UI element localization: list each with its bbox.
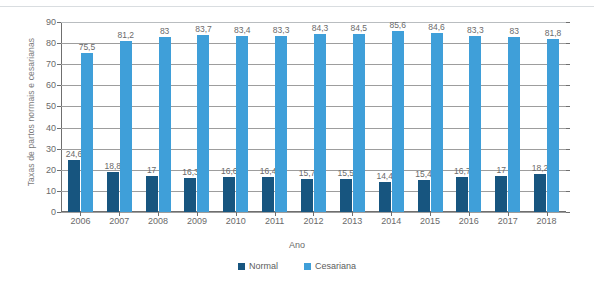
bar-value-label: 14,4 [376, 171, 393, 181]
bar-value-label: 81,2 [117, 30, 134, 40]
bar-groups: 24,675,518,881,2178316,383,716,683,416,4… [61, 22, 566, 212]
bar-value-label: 16,7 [454, 166, 471, 176]
bar-cesariana[interactable]: 83,3 [275, 36, 287, 212]
y-axis-tick-label: 50 [46, 101, 56, 111]
x-axis-tick-label: 2007 [100, 216, 139, 226]
bar-group: 24,675,5 [61, 22, 100, 212]
bar-value-label: 85,6 [389, 20, 406, 30]
bar-normal[interactable]: 15,4 [418, 180, 430, 213]
bar-normal[interactable]: 14,4 [379, 182, 391, 212]
x-axis-tick-label: 2011 [255, 216, 294, 226]
x-axis-tick-label: 2013 [333, 216, 372, 226]
bar-normal[interactable]: 24,6 [68, 160, 80, 212]
bar-value-label: 16,6 [221, 166, 238, 176]
x-axis-title: Ano [0, 240, 594, 250]
bar-value-label: 84,6 [428, 22, 445, 32]
y-axis-tick-label: 20 [46, 165, 56, 175]
bar-pair: 15,484,6 [411, 22, 450, 212]
bar-group: 15,784,3 [294, 22, 333, 212]
bar-group: 18,281,8 [527, 22, 566, 212]
y-axis-tick-mark-right [566, 212, 570, 213]
bar-normal[interactable]: 16,4 [262, 177, 274, 212]
bar-normal[interactable]: 16,3 [184, 178, 196, 212]
bar-normal[interactable]: 17 [495, 176, 507, 212]
bar-cesariana[interactable]: 75,5 [81, 53, 93, 212]
bar-pair: 15,784,3 [294, 22, 333, 212]
x-axis-tick-label: 2008 [139, 216, 178, 226]
bar-normal[interactable]: 15,7 [301, 179, 313, 212]
y-axis-tick-label: 80 [46, 38, 56, 48]
x-axis-tick-label: 2009 [178, 216, 217, 226]
chart-container: Taxas de partos normais e cesarianas 908… [0, 0, 594, 293]
y-axis-tick-label: 40 [46, 123, 56, 133]
bar-normal[interactable]: 18,8 [107, 172, 119, 212]
bar-cesariana[interactable]: 81,8 [547, 39, 559, 212]
bar-pair: 1783 [488, 22, 527, 212]
legend-label: Cesariana [315, 261, 356, 271]
bar-value-label: 83,7 [195, 24, 212, 34]
bar-cesariana[interactable]: 83 [159, 37, 171, 212]
bar-value-label: 84,3 [312, 23, 329, 33]
y-axis-title: Taxas de partos normais e cesarianas [26, 12, 36, 212]
y-axis-tick-mark-right [566, 22, 570, 23]
bar-normal[interactable]: 15,5 [340, 179, 352, 212]
bar-value-label: 16,4 [260, 166, 277, 176]
plot-area: 9080706050403020100 24,675,518,881,21783… [61, 22, 566, 212]
bar-cesariana[interactable]: 84,6 [431, 33, 443, 212]
bar-value-label: 15,5 [338, 168, 355, 178]
bar-cesariana[interactable]: 83,7 [197, 35, 209, 212]
bar-pair: 16,683,4 [216, 22, 255, 212]
bar-value-label: 18,2 [532, 163, 549, 173]
bar-value-label: 15,4 [415, 169, 432, 179]
bar-pair: 18,281,8 [527, 22, 566, 212]
bar-normal[interactable]: 17 [146, 176, 158, 212]
bar-value-label: 24,6 [66, 149, 83, 159]
x-axis-tick-label: 2018 [527, 216, 566, 226]
bar-value-label: 83,3 [467, 25, 484, 35]
bar-value-label: 75,5 [79, 42, 96, 52]
y-axis-tick-mark-right [566, 170, 570, 171]
bar-group: 15,484,6 [411, 22, 450, 212]
legend-label: Normal [249, 261, 278, 271]
y-axis-tick-mark-right [566, 43, 570, 44]
bar-pair: 18,881,2 [100, 22, 139, 212]
y-axis-tick-label: 60 [46, 80, 56, 90]
x-axis-tick-label: 2010 [216, 216, 255, 226]
bar-value-label: 83,3 [273, 25, 290, 35]
bar-pair: 24,675,5 [61, 22, 100, 212]
top-divider [0, 6, 594, 7]
legend-swatch-icon [304, 263, 311, 270]
x-axis-tick-labels: 2006200720082009201020112012201320142015… [61, 216, 566, 226]
y-axis-tick-mark-right [566, 106, 570, 107]
bar-cesariana[interactable]: 83,4 [236, 36, 248, 212]
bar-group: 15,584,5 [333, 22, 372, 212]
bar-value-label: 18,8 [104, 161, 121, 171]
chart-legend: NormalCesariana [0, 261, 594, 271]
y-axis-tick-label: 0 [51, 207, 56, 217]
bar-pair: 16,783,3 [449, 22, 488, 212]
bar-cesariana[interactable]: 83 [508, 37, 520, 212]
legend-item-normal[interactable]: Normal [238, 261, 278, 271]
x-axis-tick-label: 2014 [372, 216, 411, 226]
bar-value-label: 16,3 [182, 167, 199, 177]
y-axis-tick-label: 30 [46, 144, 56, 154]
bar-group: 18,881,2 [100, 22, 139, 212]
bar-cesariana[interactable]: 83,3 [469, 36, 481, 212]
y-axis-tick-mark-right [566, 85, 570, 86]
y-axis-tick-mark [57, 212, 61, 213]
x-axis-tick-label: 2016 [449, 216, 488, 226]
x-axis-tick-label: 2015 [411, 216, 450, 226]
bar-value-label: 17 [496, 165, 505, 175]
bar-value-label: 15,7 [299, 168, 316, 178]
bar-pair: 16,383,7 [178, 22, 217, 212]
legend-item-cesariana[interactable]: Cesariana [304, 261, 356, 271]
bar-cesariana[interactable]: 84,3 [314, 34, 326, 212]
bar-normal[interactable]: 16,6 [223, 177, 235, 212]
bar-cesariana[interactable]: 84,5 [353, 34, 365, 212]
bar-cesariana[interactable]: 85,6 [392, 31, 404, 212]
bar-group: 14,485,6 [372, 22, 411, 212]
bar-normal[interactable]: 18,2 [534, 174, 546, 212]
bar-cesariana[interactable]: 81,2 [120, 41, 132, 212]
bar-normal[interactable]: 16,7 [456, 177, 468, 212]
y-axis-tick-mark-right [566, 64, 570, 65]
